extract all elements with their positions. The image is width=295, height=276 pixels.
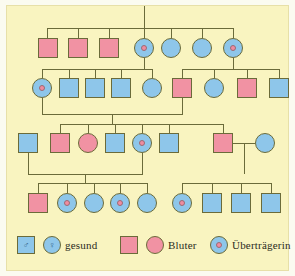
connector-gen2-left-drop-2 (69, 69, 70, 78)
connector-gen4-right-drop-3 (241, 183, 242, 193)
connector-gen2-right-drop-3 (247, 69, 248, 78)
carrier-dot-icon (179, 200, 185, 206)
connector-gen4-right-drop-2 (212, 183, 213, 193)
individual-g4-1-male-bluter[interactable] (28, 193, 48, 213)
legend-male-square-icon: ♂ (17, 236, 35, 254)
individual-g2-9-male-gesund[interactable] (269, 78, 289, 98)
individual-g1-4-female-uebertraegerin[interactable] (134, 38, 154, 58)
connector-g3-1-mate-down (28, 153, 29, 174)
carrier-dot-icon (230, 45, 236, 51)
connector-gen3-drop-5 (142, 124, 143, 133)
connector-gen1-drop-7 (233, 28, 234, 38)
carrier-dot-icon (64, 200, 70, 206)
legend: ♂ ♀ gesund Bluter Überträgerin (7, 232, 290, 262)
legend-carrier-circle-icon (210, 236, 228, 254)
connector-gen2-left-sibship-bar (42, 69, 152, 70)
individual-g2-7-female-gesund[interactable] (204, 78, 224, 98)
legend-affected-square-icon (120, 236, 138, 254)
connector-gen1-sibship-bar (47, 28, 233, 29)
connector-g2-1-mate-down (42, 98, 43, 114)
individual-g2-2-male-gesund[interactable] (59, 78, 79, 98)
venus-symbol-icon: ♀ (49, 241, 56, 250)
connector-gen2-left-drop-3 (95, 69, 96, 78)
connector-gen2-right-drop-2 (214, 69, 215, 78)
individual-g1-3-male-bluter[interactable] (99, 38, 119, 58)
individual-g4-7-male-gesund[interactable] (202, 193, 222, 213)
connector-gen4-left-sibship-bar (38, 183, 147, 184)
legend-label-uebertraegerin: Überträgerin (232, 239, 291, 251)
individual-g1-1-male-bluter[interactable] (38, 38, 58, 58)
individual-g4-5-female-gesund[interactable] (137, 193, 157, 213)
individual-g2-1-female-uebertraegerin[interactable] (32, 78, 52, 98)
connector-gen4-right-sibship-bar (182, 183, 271, 184)
connector-founder-stem (144, 6, 145, 28)
connector-gen3-right-mating-descent (244, 143, 245, 174)
connector-gen3-drop-2 (60, 124, 61, 133)
connector-gen4-left-drop-1 (38, 183, 39, 193)
connector-gen2-left-drop-1 (42, 69, 43, 78)
connector-gen1-drop-5 (171, 28, 172, 38)
legend-affected-circle-icon (146, 236, 164, 254)
connector-gen4-left-drop-2 (67, 183, 68, 193)
individual-g2-8-male-bluter[interactable] (237, 78, 257, 98)
individual-g3-4-male-gesund[interactable] (105, 133, 125, 153)
connector-gen2-mating-descent (112, 114, 113, 124)
individual-g2-4-male-gesund[interactable] (111, 78, 131, 98)
connector-gen3-drop-4 (115, 124, 116, 133)
connector-gen4-left-drop-4 (120, 183, 121, 193)
connector-gen2-left-drop-5 (152, 69, 153, 78)
carrier-dot-icon (139, 140, 145, 146)
connector-gen2-right-drop-1 (182, 69, 183, 78)
connector-g3-5-mate-down (142, 153, 143, 174)
individual-g4-9-male-gesund[interactable] (261, 193, 281, 213)
individual-g3-7-male-bluter[interactable] (213, 133, 233, 153)
individual-g3-3-female-bluter[interactable] (78, 133, 98, 153)
legend-item-uebertraegerin: Überträgerin (210, 236, 291, 254)
individual-g4-4-female-uebertraegerin[interactable] (110, 193, 130, 213)
legend-female-circle-icon: ♀ (43, 236, 61, 254)
legend-label-gesund: gesund (65, 239, 97, 251)
connector-gen3-drop-3 (88, 124, 89, 133)
carrier-dot-icon (216, 242, 222, 248)
connector-gen4-left-drop-3 (94, 183, 95, 193)
legend-label-bluter: Bluter (168, 239, 197, 251)
individual-g4-6-female-uebertraegerin[interactable] (172, 193, 192, 213)
individual-g3-2-male-bluter[interactable] (50, 133, 70, 153)
connector-gen4-right-drop-4 (271, 183, 272, 193)
connector-gen1-drop-1 (47, 28, 48, 38)
connector-gen1-drop-4 (144, 28, 145, 38)
connector-gen1-drop-2 (78, 28, 79, 38)
carrier-dot-icon (39, 85, 45, 91)
connector-gen4-right-drop-1 (182, 183, 183, 193)
connector-g1-4-descent (144, 58, 145, 69)
individual-g1-5-female-gesund[interactable] (161, 38, 181, 58)
individual-g2-5-female-gesund[interactable] (142, 78, 162, 98)
carrier-dot-icon (117, 200, 123, 206)
individual-g4-8-male-gesund[interactable] (231, 193, 251, 213)
individual-g2-3-male-gesund[interactable] (85, 78, 105, 98)
connector-gen4-left-drop-5 (147, 183, 148, 193)
individual-g1-2-male-bluter[interactable] (68, 38, 88, 58)
connector-gen2-right-sibship-bar (182, 69, 279, 70)
individual-g2-6-male-bluter[interactable] (172, 78, 192, 98)
connector-g1-7-descent (233, 58, 234, 69)
pedigree-canvas: ♂ ♀ gesund Bluter Überträgerin (6, 5, 289, 271)
connector-gen2-left-drop-4 (121, 69, 122, 78)
individual-g3-6-male-gesund[interactable] (159, 133, 179, 153)
legend-item-bluter: Bluter (120, 236, 197, 254)
individual-g1-7-female-uebertraegerin[interactable] (223, 38, 243, 58)
connector-g2-6-mate-down (182, 98, 183, 114)
individual-g4-2-female-uebertraegerin[interactable] (57, 193, 77, 213)
individual-g3-8-female-gesund[interactable] (255, 133, 275, 153)
connector-gen3-drop-6 (169, 124, 170, 133)
individual-g3-5-female-uebertraegerin[interactable] (132, 133, 152, 153)
individual-g1-6-female-gesund[interactable] (192, 38, 212, 58)
individual-g3-1-male-gesund[interactable] (18, 133, 38, 153)
carrier-dot-icon (141, 45, 147, 51)
connector-gen1-drop-3 (109, 28, 110, 38)
legend-item-gesund: ♂ ♀ gesund (17, 236, 97, 254)
individual-g4-3-female-gesund[interactable] (84, 193, 104, 213)
pedigree-chart-figure: ♂ ♀ gesund Bluter Überträgerin (0, 0, 295, 276)
connector-gen3-drop-7 (223, 124, 224, 133)
connector-gen4-left-descent (85, 174, 86, 183)
